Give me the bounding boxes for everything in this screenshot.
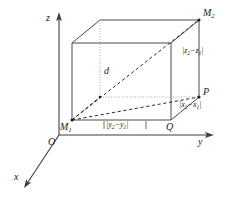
abs-close: |	[199, 100, 201, 109]
edge-length-y-label: |y2−y1|	[106, 121, 128, 130]
edge-length-z-label: |z2−z1|	[182, 47, 204, 56]
edge-length-x-label: |x2−x1|	[179, 101, 201, 110]
point-m1-label: M1	[60, 122, 72, 134]
z-axis	[56, 12, 62, 135]
point-q-label: Q	[166, 122, 173, 132]
figure-canvas: z y x O M1 M2 P Q d |y2−y1| |x2−x1| |z2−…	[0, 0, 229, 204]
origin-label: O	[48, 137, 55, 147]
z-axis-label: z	[46, 13, 50, 23]
diagonal-d-label: d	[104, 66, 109, 76]
depth-diagonal-line	[72, 97, 100, 120]
y-axis-label: y	[198, 137, 202, 147]
point-m2-label: M2	[203, 8, 215, 20]
vertex-m2	[198, 19, 201, 22]
point-m1-subscript: 1	[68, 126, 71, 133]
vertex-p	[198, 96, 201, 99]
y-axis	[59, 132, 214, 138]
abs-close: |	[201, 46, 203, 55]
x-axis-label: x	[14, 172, 18, 182]
point-m2-subscript: 2	[211, 12, 214, 19]
abs-close: |	[126, 120, 128, 129]
point-p-label: P	[203, 87, 209, 97]
vertex-back-base	[99, 96, 102, 99]
